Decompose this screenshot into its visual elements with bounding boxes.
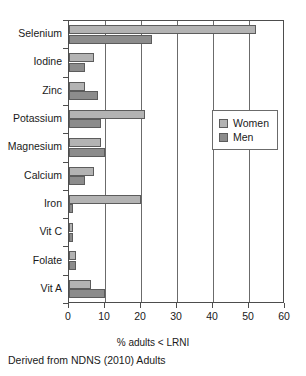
x-tick-30 (176, 303, 177, 308)
bar-group (69, 191, 283, 219)
x-tick-60 (284, 303, 285, 308)
bar-women-iodine (69, 53, 94, 62)
category-label-zinc: Zinc (42, 85, 62, 96)
category-tick (63, 275, 68, 276)
category-tick (63, 20, 68, 21)
category-label-iron: Iron (44, 198, 62, 209)
category-label-folate: Folate (33, 255, 62, 266)
bar-group (69, 78, 283, 106)
legend-entry-men: Men (219, 130, 272, 144)
category-tick (63, 105, 68, 106)
x-tick-label-40: 40 (197, 310, 227, 322)
category-label-selenium: Selenium (18, 28, 62, 39)
category-label-calcium: Calcium (24, 170, 62, 181)
category-tick (63, 162, 68, 163)
category-tick (63, 77, 68, 78)
legend-label-women: Women (233, 118, 269, 129)
x-tick-label-60: 60 (269, 310, 299, 322)
bar-women-zinc (69, 82, 85, 91)
legend-label-men: Men (233, 132, 253, 143)
bar-men-magnesium (69, 148, 105, 157)
bar-women-potassium (69, 110, 145, 119)
bar-women-vit-a (69, 280, 91, 289)
bar-men-calcium (69, 176, 85, 185)
category-tick (63, 190, 68, 191)
category-label-iodine: Iodine (33, 56, 62, 67)
legend-swatch-women (219, 119, 228, 128)
category-label-magnesium: Magnesium (8, 141, 62, 152)
bar-women-calcium (69, 167, 94, 176)
bar-rows (69, 21, 283, 302)
category-label-vit-a: Vit A (41, 283, 62, 294)
bar-men-selenium (69, 35, 152, 44)
plot-area (68, 20, 284, 303)
chart-legend: WomenMen (212, 110, 278, 150)
category-tick (63, 133, 68, 134)
bar-women-selenium (69, 25, 256, 34)
x-tick-label-20: 20 (125, 310, 155, 322)
bar-men-potassium (69, 119, 101, 128)
category-label-potassium: Potassium (13, 113, 62, 124)
bar-group (69, 219, 283, 247)
bar-group (69, 163, 283, 191)
x-tick-label-0: 0 (53, 310, 83, 322)
x-axis-title: % adults < LRNI (0, 337, 306, 349)
chart-figure: SeleniumIodineZincPotassiumMagnesiumCalc… (0, 0, 306, 376)
legend-swatch-men (219, 133, 228, 142)
x-tick-label-50: 50 (233, 310, 263, 322)
bar-women-vit-c (69, 223, 73, 232)
bar-men-vit-a (69, 289, 105, 298)
bar-men-folate (69, 261, 76, 270)
x-tick-label-10: 10 (89, 310, 119, 322)
bar-women-iron (69, 195, 141, 204)
bar-group (69, 247, 283, 275)
bar-group (69, 276, 283, 304)
bar-group (69, 21, 283, 49)
bar-men-zinc (69, 91, 98, 100)
source-caption: Derived from NDNS (2010) Adults (8, 354, 166, 367)
category-tick (63, 246, 68, 247)
x-tick-10 (104, 303, 105, 308)
bar-women-folate (69, 251, 76, 260)
x-tick-0 (68, 303, 69, 308)
bar-men-iron (69, 204, 73, 213)
category-label-vit-c: Vit C (39, 226, 62, 237)
bar-group (69, 49, 283, 77)
x-tick-50 (248, 303, 249, 308)
x-tick-label-30: 30 (161, 310, 191, 322)
bar-women-magnesium (69, 138, 101, 147)
x-tick-20 (140, 303, 141, 308)
legend-entry-women: Women (219, 116, 272, 130)
bar-men-iodine (69, 63, 85, 72)
category-tick (63, 48, 68, 49)
category-tick (63, 218, 68, 219)
bar-men-vit-c (69, 233, 73, 242)
x-tick-40 (212, 303, 213, 308)
